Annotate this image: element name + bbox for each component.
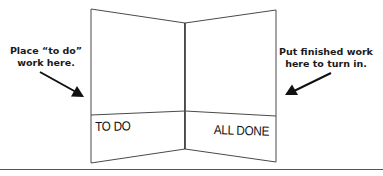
left-instruction-line-2: work here.	[6, 57, 86, 69]
right-instruction-line-1: Put finished work	[278, 46, 374, 58]
left-arrow-icon	[40, 72, 84, 97]
right-instruction-text: Put finished work here to turn in.	[278, 46, 374, 70]
right-arrow-icon	[285, 73, 331, 95]
left-instruction-line-1: Place “to do”	[6, 45, 86, 57]
folder-right-panel	[185, 10, 276, 162]
right-instruction-line-2: here to turn in.	[278, 58, 374, 70]
done-pocket-label: ALL DONE	[214, 122, 270, 139]
folder-diagram: Place “to do” work here. Put finished wo…	[0, 0, 383, 176]
folder-left-panel	[91, 9, 185, 163]
todo-pocket-label: TO DO	[95, 118, 131, 134]
folder-drawing	[0, 0, 383, 176]
left-instruction-text: Place “to do” work here.	[6, 45, 86, 69]
